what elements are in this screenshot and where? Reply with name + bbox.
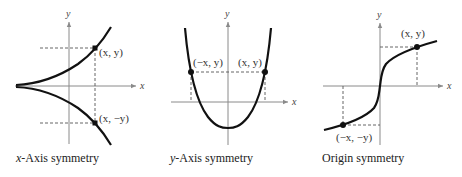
point-label: (x, y) (99, 46, 123, 59)
point-marker (93, 121, 98, 126)
caption-x-axis-symmetry: x-Axis symmetry (16, 151, 99, 166)
point-marker (414, 44, 420, 50)
caption-text: -Axis symmetry (175, 151, 253, 165)
point-marker (188, 69, 194, 75)
point-marker (93, 46, 98, 51)
caption-text: Origin symmetry (322, 151, 404, 165)
lower-curve (16, 87, 111, 145)
graph-x-axis-symmetry: x y (x, y) (x, −y) (15, 8, 145, 145)
upper-curve (16, 27, 111, 85)
caption-origin-symmetry: Origin symmetry (322, 151, 404, 166)
x-axis-label: x (291, 96, 297, 107)
point-marker (340, 122, 346, 128)
x-axis-label: x (446, 80, 452, 91)
point-label: (−x, −y) (336, 131, 373, 144)
point-label: (x, y) (238, 56, 262, 69)
caption-y-axis-symmetry: y-Axis symmetry (170, 151, 253, 166)
y-axis-label: y (65, 8, 71, 19)
graph-origin-symmetry: x y (x, y) (−x, −y) (323, 9, 452, 145)
point-label: (x, y) (401, 27, 425, 40)
point-label: (−x, y) (193, 56, 223, 69)
point-marker (262, 69, 268, 75)
y-axis-label: y (376, 9, 382, 20)
y-axis-label: y (224, 8, 230, 19)
caption-text: -Axis symmetry (21, 151, 99, 165)
graph-y-axis-symmetry: x y (−x, y) (x, y) (171, 8, 297, 145)
x-axis-label: x (139, 80, 145, 91)
point-label: (x, −y) (99, 112, 129, 125)
